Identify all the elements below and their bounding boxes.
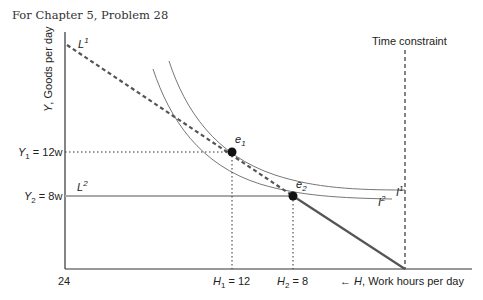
labor-leisure-diagram: Y, Goods per day Time constraint L1 L2 I… [0, 0, 483, 300]
equilibrium-point-e1 [228, 148, 237, 157]
x-tick-h2: H2 = 8 [277, 275, 308, 290]
label-i2: I2 [378, 194, 386, 208]
equilibrium-point-e2 [289, 192, 298, 201]
x-axis-label: ← H, Work hours per day [340, 275, 464, 287]
label-l2: L2 [77, 179, 88, 193]
y-tick-y2: Y2 = 8w [24, 190, 62, 205]
time-constraint-label: Time constraint [372, 35, 447, 47]
label-l1: L1 [78, 36, 89, 50]
budget-line-l1 [67, 45, 293, 196]
x-origin-label: 24 [58, 275, 70, 287]
y-axis-label: Y, Goods per day [42, 26, 54, 112]
label-e2: e2 [296, 178, 307, 193]
y-tick-y1: Y1 = 12w [18, 146, 63, 161]
label-e1: e1 [235, 133, 246, 148]
x-tick-h1: H1 = 12 [213, 275, 250, 290]
indifference-curve-i2 [153, 69, 392, 199]
indifference-curve-i1 [169, 61, 405, 190]
budget-segment-kinked [293, 196, 405, 269]
left-arrow-icon: ← [340, 275, 351, 287]
label-i1: I1 [396, 184, 404, 198]
